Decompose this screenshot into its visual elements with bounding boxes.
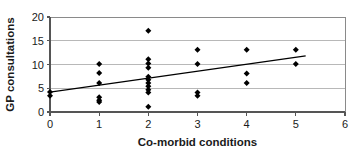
x-tick-label: 0	[47, 118, 53, 130]
x-tick-label: 5	[293, 118, 299, 130]
x-tick-label: 2	[145, 118, 151, 130]
y-tick-label: 20	[32, 11, 44, 23]
x-tick-label: 6	[342, 118, 348, 130]
scatter-chart: 051015200123456Co-morbid conditionsGP co…	[0, 0, 360, 155]
chart-canvas: 051015200123456Co-morbid conditionsGP co…	[0, 0, 360, 155]
x-axis-title: Co-morbid conditions	[138, 136, 257, 148]
y-tick-label: 0	[38, 106, 44, 118]
x-tick-label: 4	[244, 118, 250, 130]
x-tick-label: 3	[194, 118, 200, 130]
y-tick-label: 10	[32, 59, 44, 71]
chart-background	[0, 0, 360, 155]
x-tick-label: 1	[96, 118, 102, 130]
y-tick-label: 5	[38, 82, 44, 94]
y-axis-title: GP consultations	[4, 17, 16, 111]
y-tick-label: 15	[32, 35, 44, 47]
